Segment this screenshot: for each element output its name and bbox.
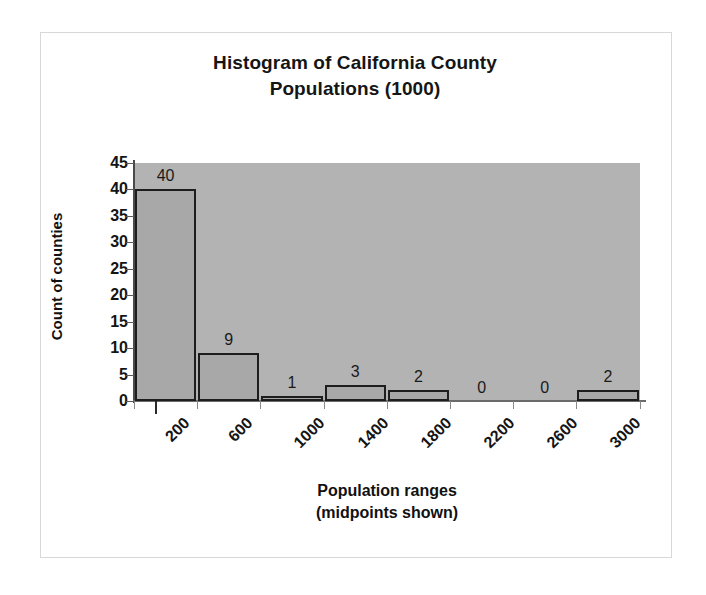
bar	[577, 390, 638, 401]
y-tickmark	[126, 189, 134, 190]
bar-value-label: 2	[414, 369, 423, 385]
y-tickmark	[126, 348, 134, 349]
bar	[135, 189, 196, 401]
y-axis-tick-labels: 051015202530354045	[88, 155, 128, 407]
y-tickmark	[126, 375, 134, 376]
x-tickmark	[576, 401, 577, 409]
bar	[198, 353, 259, 401]
x-tickmark	[260, 401, 261, 409]
y-tick-label: 15	[88, 314, 128, 330]
x-axis-title: Population ranges (midpoints shown)	[134, 480, 640, 524]
y-tickmark	[126, 295, 134, 296]
y-tick-label: 10	[88, 340, 128, 356]
bar	[261, 396, 322, 401]
x-tickmark	[387, 401, 388, 409]
y-tickmark	[126, 216, 134, 217]
bar-value-label: 40	[157, 168, 175, 184]
bar-value-label: 0	[540, 380, 549, 396]
x-tickmark	[450, 401, 451, 409]
y-tick-label: 5	[88, 367, 128, 383]
x-tickmark	[324, 401, 325, 409]
y-tickmark	[126, 242, 134, 243]
y-tick-label: 0	[88, 393, 128, 409]
bar-value-label: 1	[288, 375, 297, 391]
x-tickmark	[197, 401, 198, 409]
bar-value-label: 0	[477, 380, 486, 396]
x-axis-title-line-1: Population ranges	[134, 480, 640, 502]
y-tick-label: 35	[88, 208, 128, 224]
bar	[325, 385, 386, 401]
bar-value-label: 2	[604, 369, 613, 385]
x-tickmark	[640, 401, 641, 409]
x-axis-title-line-2: (midpoints shown)	[134, 502, 640, 524]
y-tick-label: 40	[88, 181, 128, 197]
chart-title-line-2: Populations (1000)	[60, 76, 650, 102]
y-tickmark	[126, 269, 134, 270]
x-tickmark	[513, 401, 514, 409]
chart-title: Histogram of California County Populatio…	[60, 50, 650, 102]
y-tick-label: 45	[88, 155, 128, 171]
y-tickmark	[126, 163, 134, 164]
y-tickmark	[126, 322, 134, 323]
x-tickmark	[134, 401, 135, 409]
bar-value-label: 9	[224, 332, 233, 348]
bar	[388, 390, 449, 401]
y-axis-title: Count of counties	[48, 177, 65, 377]
y-tick-label: 30	[88, 234, 128, 250]
y-tick-label: 20	[88, 287, 128, 303]
chart-title-line-1: Histogram of California County	[60, 50, 650, 76]
y-tick-label: 25	[88, 261, 128, 277]
y-tickmark	[126, 401, 134, 402]
bar-value-label: 3	[351, 364, 360, 380]
